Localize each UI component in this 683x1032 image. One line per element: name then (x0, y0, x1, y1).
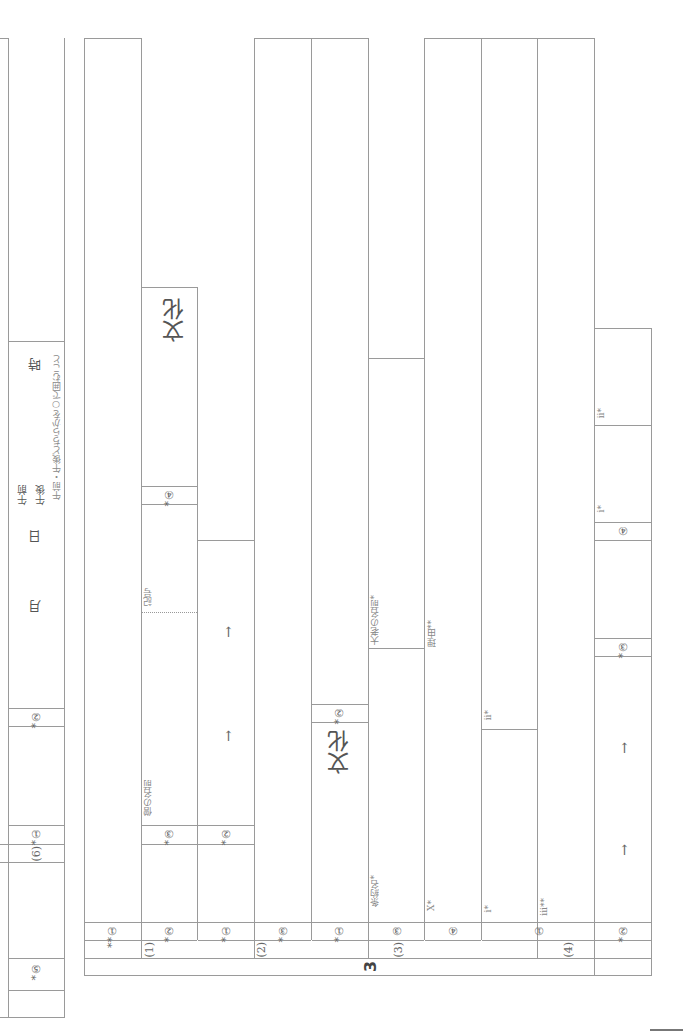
part-3-q2-label: *② (333, 706, 344, 725)
part-1-q1-label: **① (106, 924, 117, 948)
part-1-q3-answer[interactable] (142, 505, 197, 825)
question-6-label: (6) (31, 846, 42, 862)
question-6-1-label: *① (30, 827, 41, 846)
part-4-q2-label: *② (617, 924, 628, 943)
part-2-label: (2) (256, 942, 267, 958)
part-1-q2-label: *② (163, 924, 174, 943)
part-2-q2-label: *② (220, 827, 231, 846)
part-2-q1-answer[interactable] (198, 845, 254, 922)
part-1-q4-answer[interactable] (142, 288, 197, 486)
part-1-label: (1) (144, 942, 155, 958)
part-1-q4-label: *④ (163, 488, 174, 507)
corner-mark (650, 1029, 683, 1031)
part-2-q3-answer[interactable] (255, 39, 311, 922)
part-4-q3-label: *③ (617, 640, 628, 659)
part-3-q1-label: *① (333, 924, 344, 943)
question-5-label: *⑤ (30, 962, 41, 981)
part-3-q4-answer[interactable] (425, 39, 481, 922)
part-4-q4-label: ④ (617, 524, 628, 537)
part-4-q4-answer[interactable] (595, 329, 651, 522)
part-1-q3-label: *③ (163, 827, 174, 846)
time-answer-field[interactable] (9, 342, 64, 707)
part-4-q1-answer[interactable] (482, 39, 594, 922)
part-2-q1-label: *① (220, 924, 231, 943)
part-4-q2-answer[interactable] (595, 657, 651, 922)
part-3-q3-answer[interactable] (369, 359, 424, 922)
part-3-q2-answer[interactable] (312, 39, 368, 704)
part-2-q3-label: *③ (277, 924, 288, 943)
question-6-2-label: *② (30, 710, 41, 729)
part-2-q2-answer[interactable] (198, 541, 254, 825)
part-1-q2-answer[interactable] (142, 845, 197, 922)
part-3-label: (3) (393, 942, 404, 958)
part-4-label: (4) (563, 942, 574, 958)
part-1-q1-answer[interactable] (85, 39, 141, 922)
part-4-q1-label: ① (533, 924, 544, 937)
section-number: 3 (361, 961, 380, 972)
part-3-q1-answer[interactable] (312, 723, 368, 922)
part-3-q3-label: ③ (391, 924, 402, 937)
part-3-q4-label: ④ (447, 924, 458, 937)
